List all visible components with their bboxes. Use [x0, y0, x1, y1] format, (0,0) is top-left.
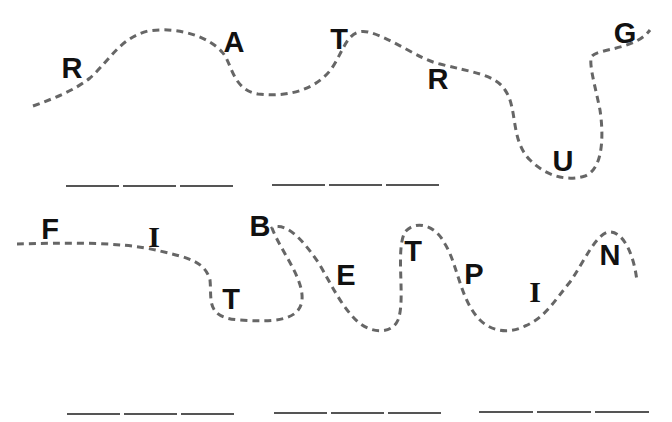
- answer-blank[interactable]: [274, 412, 327, 414]
- puzzle-letter: A: [224, 28, 245, 57]
- puzzle-letter: G: [614, 19, 637, 48]
- dashed-path-row-2: [17, 225, 637, 331]
- dashed-paths: [0, 0, 672, 422]
- puzzle-letter: I: [529, 277, 541, 307]
- puzzle-letter: I: [148, 222, 160, 252]
- answer-blank[interactable]: [595, 411, 649, 413]
- answer-blank[interactable]: [386, 184, 439, 186]
- answer-blank[interactable]: [479, 411, 533, 413]
- puzzle-letter: R: [62, 54, 83, 83]
- answer-blank[interactable]: [388, 412, 441, 414]
- puzzle-letter: E: [336, 261, 355, 290]
- answer-blank[interactable]: [124, 413, 177, 415]
- puzzle-letter: T: [330, 25, 348, 54]
- answer-blank[interactable]: [537, 411, 591, 413]
- answer-blank[interactable]: [331, 412, 384, 414]
- puzzle-letter: B: [250, 212, 271, 241]
- answer-blank[interactable]: [329, 184, 382, 186]
- puzzle-letter: T: [404, 237, 422, 266]
- puzzle-letter: N: [600, 241, 621, 270]
- answer-blank[interactable]: [272, 184, 325, 186]
- puzzle-letter: R: [428, 65, 449, 94]
- answer-blank[interactable]: [67, 413, 120, 415]
- puzzle-letter: F: [41, 215, 59, 244]
- answer-blank[interactable]: [181, 413, 234, 415]
- puzzle-letter: U: [553, 147, 574, 176]
- answer-blank[interactable]: [180, 185, 233, 187]
- answer-blank[interactable]: [66, 185, 119, 187]
- puzzle-letter: T: [222, 285, 240, 314]
- puzzle-letter: P: [464, 260, 483, 289]
- answer-blank[interactable]: [123, 185, 176, 187]
